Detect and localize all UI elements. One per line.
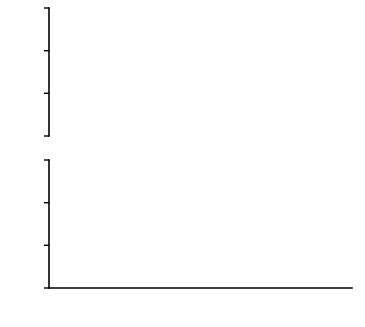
two-panel-line-chart	[0, 0, 365, 327]
chart-background	[0, 0, 365, 327]
